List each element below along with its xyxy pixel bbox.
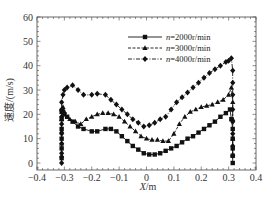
legend-item: n=4000r/min bbox=[128, 54, 211, 64]
x-tick-label: 0.4 bbox=[250, 172, 263, 183]
legend-item: n=2000r/min bbox=[128, 32, 211, 42]
plot-frame bbox=[37, 17, 256, 170]
y-tick-label: 50 bbox=[23, 36, 33, 47]
y-axis-label: 速度/(m/s) bbox=[3, 78, 16, 122]
legend: n=2000r/minn=3000r/minn=4000r/min bbox=[128, 32, 211, 64]
x-tick-label: −0.4 bbox=[28, 172, 46, 183]
y-tick-label: 40 bbox=[23, 60, 33, 71]
y-tick-label: 20 bbox=[23, 109, 33, 120]
x-axis-label: X/m bbox=[139, 181, 157, 192]
series-diamond bbox=[59, 55, 235, 166]
x-tick-label: −0.2 bbox=[83, 172, 101, 183]
y-tick-label: 60 bbox=[23, 12, 33, 23]
series-square bbox=[59, 107, 234, 165]
x-tick-label: −0.1 bbox=[110, 172, 128, 183]
y-tick-label: 0 bbox=[28, 158, 33, 169]
series-triangle bbox=[59, 85, 235, 158]
legend-item: n=3000r/min bbox=[128, 43, 211, 53]
legend-label: n=3000r/min bbox=[166, 43, 211, 53]
chart: −0.4−0.3−0.2−0.100.10.20.30.401020304050… bbox=[0, 0, 275, 211]
y-tick-label: 30 bbox=[23, 85, 33, 96]
x-tick-label: −0.3 bbox=[55, 172, 73, 183]
series-layer bbox=[59, 55, 235, 166]
x-tick-label: 0.1 bbox=[168, 172, 181, 183]
legend-label: n=2000r/min bbox=[166, 32, 211, 42]
x-tick-label: 0.3 bbox=[222, 172, 235, 183]
plot-border bbox=[37, 17, 256, 170]
legend-label: n=4000r/min bbox=[166, 54, 211, 64]
y-tick-label: 10 bbox=[23, 133, 33, 144]
axis-ticks bbox=[37, 17, 256, 170]
x-tick-label: 0.2 bbox=[195, 172, 208, 183]
